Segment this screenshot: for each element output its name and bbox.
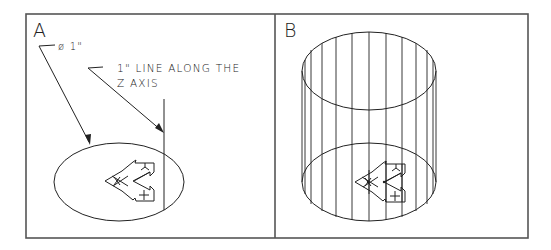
panel-a-label: A (33, 19, 46, 41)
diameter-leader (39, 45, 91, 145)
diameter-annotation: ø 1" (58, 41, 83, 52)
ucs-icon (105, 160, 154, 201)
cad-figure: A ø 1" 1" LINE ALONG THE Z AXIS (0, 0, 551, 250)
ucs-icon (355, 161, 405, 202)
arrowhead-icon (85, 134, 91, 145)
arrowhead-icon (155, 123, 164, 133)
panel-b-label: B (284, 19, 296, 41)
figure-frame (26, 14, 528, 238)
panel-a: A ø 1" 1" LINE ALONG THE Z AXIS (33, 19, 240, 221)
z-line-annotation-line2: Z AXIS (117, 77, 159, 89)
z-line-annotation-line1: 1" LINE ALONG THE (117, 62, 240, 74)
panel-b: B (284, 19, 436, 221)
